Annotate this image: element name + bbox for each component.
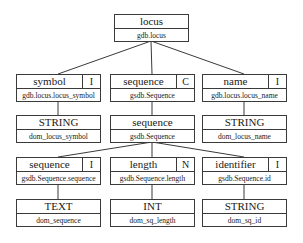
node-string-name: STRING dom_locus_name bbox=[202, 115, 287, 143]
node-title: sequence bbox=[17, 158, 82, 171]
node-title: length bbox=[111, 158, 176, 171]
node-subtitle: gsdb.Sequence.id bbox=[203, 172, 286, 185]
node-title: sequence bbox=[111, 116, 194, 129]
node-subtitle: dom_sequence bbox=[17, 214, 100, 227]
node-sequence-attr: sequence I gsdb.Sequence.sequence bbox=[16, 157, 101, 185]
node-subtitle: gsdb.Sequence bbox=[111, 89, 194, 102]
node-title: identifier bbox=[203, 158, 268, 171]
node-flag: I bbox=[268, 158, 286, 171]
node-title: STRING bbox=[203, 200, 286, 213]
node-identifier: identifier I gsdb.Sequence.id bbox=[202, 157, 287, 185]
node-subtitle: dom_locus_name bbox=[203, 130, 286, 143]
node-subtitle: gsdb.Sequence.sequence bbox=[17, 172, 100, 185]
node-string-id: STRING dom_sq_id bbox=[202, 199, 287, 227]
node-string-symbol: STRING dom_locus_symbol bbox=[16, 115, 101, 143]
node-flag: N bbox=[176, 158, 194, 171]
node-locus: locus gdb.locus bbox=[114, 14, 189, 42]
node-title: STRING bbox=[17, 116, 100, 129]
node-subtitle: gdb.locus bbox=[115, 29, 188, 42]
node-title: TEXT bbox=[17, 200, 100, 213]
node-name: name I gdb.locus.locus_name bbox=[202, 74, 287, 102]
node-subtitle: gdb.locus.locus_name bbox=[203, 89, 286, 102]
node-title: sequence bbox=[111, 75, 176, 88]
node-flag: I bbox=[82, 75, 100, 88]
node-subtitle: dom_sq_id bbox=[203, 214, 286, 227]
node-int: INT dom_sq_length bbox=[110, 199, 195, 227]
node-text: TEXT dom_sequence bbox=[16, 199, 101, 227]
node-symbol: symbol I gdb.locus.locus_symbol bbox=[16, 74, 101, 102]
node-sequence-composite: sequence C gsdb.Sequence bbox=[110, 74, 195, 102]
node-flag: I bbox=[82, 158, 100, 171]
node-subtitle: gdb.locus.locus_symbol bbox=[17, 89, 100, 102]
node-subtitle: gsdb.Sequence bbox=[111, 130, 194, 143]
node-length: length N gsdb.Sequence.length bbox=[110, 157, 195, 185]
node-subtitle: dom_sq_length bbox=[111, 214, 194, 227]
node-title: symbol bbox=[17, 75, 82, 88]
node-flag: I bbox=[268, 75, 286, 88]
node-title: locus bbox=[115, 15, 188, 28]
node-subtitle: dom_locus_symbol bbox=[17, 130, 100, 143]
node-title: STRING bbox=[203, 116, 286, 129]
node-title: name bbox=[203, 75, 268, 88]
node-subtitle: gsdb.Sequence.length bbox=[111, 172, 194, 185]
node-flag: C bbox=[176, 75, 194, 88]
node-sequence-class: sequence gsdb.Sequence bbox=[110, 115, 195, 143]
node-title: INT bbox=[111, 200, 194, 213]
